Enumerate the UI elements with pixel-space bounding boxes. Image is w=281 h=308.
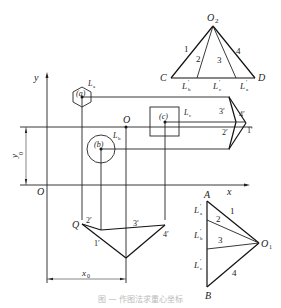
svg-text:′: ′: [200, 258, 202, 264]
pole-O-label: O: [123, 114, 130, 125]
ray-3-label: 3: [217, 55, 222, 65]
point-A-label: A: [203, 189, 211, 200]
svg-text:L: L: [181, 81, 187, 91]
load-a-hexagon: (a) L a: [73, 79, 96, 107]
bottom-force-triangle: A B O 1 1 2 3 4 L a ′ L b ′ L c ′: [193, 189, 272, 301]
x0-dimension-label: x 0: [81, 268, 90, 279]
svg-text:4′: 4′: [163, 230, 169, 239]
origin-label: O: [37, 186, 44, 197]
svg-text:′: ′: [219, 79, 221, 85]
svg-text:1′: 1′: [94, 239, 100, 248]
point-C-label: C: [160, 72, 167, 83]
force-polygon-diagram: O2O 2 C D 1 2 3 4 L b ′ L c ′ L a ′ y: [0, 0, 281, 308]
load-c-square: (c) L c: [150, 107, 192, 136]
svg-text:(b): (b): [94, 140, 104, 149]
figure-caption: 图 — 作图法求重心坐标: [0, 293, 281, 304]
svg-text:L: L: [193, 260, 199, 270]
svg-text:0: 0: [87, 273, 90, 279]
svg-text:L: L: [193, 205, 199, 215]
svg-text:L: L: [212, 81, 218, 91]
svg-text:1′: 1′: [247, 126, 253, 135]
side-label-Lb: L b ′: [193, 228, 203, 241]
side-label-Lc: L c ′: [193, 258, 203, 271]
base-label-Lb: L b ′: [181, 79, 191, 92]
svg-text:′: ′: [200, 203, 202, 209]
svg-text:c: c: [200, 266, 203, 271]
svg-text:4: 4: [232, 268, 237, 278]
ray-2-label: 2: [196, 54, 201, 64]
x-axis-label: x: [226, 186, 232, 197]
svg-text:2′: 2′: [86, 216, 92, 225]
top-force-triangle: O2O 2 C D 1 2 3 4 L b ′ L c ′ L a ′: [160, 12, 266, 92]
svg-text:c: c: [189, 113, 192, 118]
svg-text:′: ′: [200, 228, 202, 234]
ray-4-label: 4: [236, 46, 241, 56]
svg-text:L: L: [193, 230, 199, 240]
point-D-label: D: [257, 72, 266, 83]
y0-dimension-label: y 0: [9, 152, 24, 159]
svg-text:a: a: [200, 211, 203, 216]
svg-text:2′: 2′: [222, 128, 228, 137]
svg-text:b: b: [200, 236, 203, 241]
ray-1-label: 1: [184, 44, 189, 54]
base-label-Lc: L c ′: [212, 79, 222, 92]
y-axis-label: y: [33, 72, 39, 83]
svg-text:1: 1: [269, 244, 272, 250]
svg-text:3′: 3′: [133, 219, 139, 228]
apex-label: O2O: [207, 12, 214, 23]
bottom-funicular-polygon: Q 2′ 3′ 1′ 4′: [72, 216, 169, 258]
svg-text:1: 1: [230, 206, 235, 216]
side-label-La: L a ′: [193, 203, 203, 216]
svg-text:0: 0: [18, 152, 24, 155]
svg-text:4′: 4′: [239, 110, 245, 119]
plan-view: y x O y 0 (a) L a O: [9, 72, 253, 283]
svg-text:2: 2: [216, 214, 221, 224]
svg-text:(c): (c): [159, 112, 168, 121]
load-b-circle: (b) L b: [87, 131, 121, 163]
svg-text:′: ′: [246, 79, 248, 85]
right-funicular-polygon: 3′ 4′ 2′ 1′: [219, 97, 253, 149]
svg-text:Q: Q: [72, 219, 80, 230]
svg-text:c: c: [219, 87, 222, 92]
svg-text:O: O: [261, 238, 268, 249]
svg-text:a: a: [246, 87, 249, 92]
base-label-La: L a ′: [239, 79, 249, 92]
svg-text:b: b: [188, 87, 191, 92]
svg-text:3: 3: [218, 235, 223, 245]
svg-text:2: 2: [215, 17, 219, 25]
svg-text:b: b: [118, 136, 121, 141]
svg-text:x: x: [81, 268, 86, 278]
svg-text:a: a: [93, 84, 96, 89]
svg-text:L: L: [239, 81, 245, 91]
svg-text:3′: 3′: [219, 107, 225, 116]
svg-text:′: ′: [188, 79, 190, 85]
pole-O1-label: O 1: [261, 238, 272, 250]
